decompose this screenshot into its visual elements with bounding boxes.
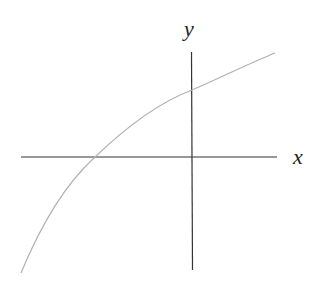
x-axis-label: x: [292, 144, 303, 169]
y-axis-label: y: [182, 16, 194, 41]
function-curve: [21, 53, 275, 273]
graph-canvas: y x: [0, 0, 317, 284]
y-axis: [192, 52, 193, 270]
